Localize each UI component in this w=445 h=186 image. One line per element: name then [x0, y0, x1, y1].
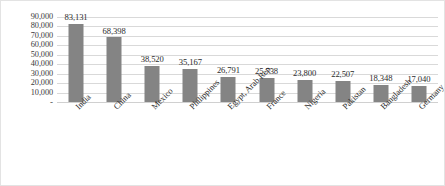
bar[interactable] — [107, 37, 122, 102]
x-axis-tick: India — [57, 102, 95, 186]
bar-value-label: 83,131 — [65, 13, 88, 22]
y-axis-tick-label: 60,000 — [31, 41, 53, 49]
y-axis-tick-label: - — [50, 98, 53, 107]
y-axis-tick-label: 30,000 — [31, 70, 53, 78]
x-axis-tick: Philippines — [171, 102, 209, 186]
y-axis: 90,00080,00070,00060,00050,00040,00030,0… — [1, 17, 53, 102]
y-axis-tick-label: 90,000 — [31, 13, 53, 21]
x-axis-tick: Pakistan — [324, 102, 362, 186]
y-axis-tick-label: 10,000 — [31, 88, 53, 96]
x-axis-tick: China — [95, 102, 133, 186]
y-axis-tick-label: 80,000 — [31, 22, 53, 30]
bar-value-label: 18,348 — [369, 74, 392, 83]
x-axis-tick: Germany — [400, 102, 438, 186]
bar-value-label: 38,520 — [141, 55, 164, 64]
bar-value-label: 23,800 — [293, 69, 316, 78]
x-axis-tick: Bangladesh — [362, 102, 400, 186]
bar-value-label: 68,398 — [103, 27, 126, 36]
y-axis-tick-label: 40,000 — [31, 60, 53, 68]
y-axis-tick-label: 20,000 — [31, 79, 53, 87]
bar-value-label: 22,507 — [331, 70, 354, 79]
bar-chart: 90,00080,00070,00060,00050,00040,00030,0… — [0, 0, 445, 186]
bar-value-label: 35,167 — [179, 58, 202, 67]
x-axis-tick: Egypt, Arab Rep. — [209, 102, 247, 186]
x-axis-tick: France — [248, 102, 286, 186]
y-axis-tick-label: 70,000 — [31, 32, 53, 40]
y-axis-tick-label: 50,000 — [31, 51, 53, 59]
x-axis-tick: Mexico — [133, 102, 171, 186]
bar-value-label: 26,791 — [217, 66, 240, 75]
bar-group: 83,131 — [57, 17, 95, 102]
bar[interactable] — [69, 24, 84, 103]
x-axis: IndiaChinaMexicoPhilippinesEgypt, Arab R… — [57, 102, 438, 186]
bar-group: 68,398 — [95, 17, 133, 102]
x-axis-tick: Nigeria — [286, 102, 324, 186]
